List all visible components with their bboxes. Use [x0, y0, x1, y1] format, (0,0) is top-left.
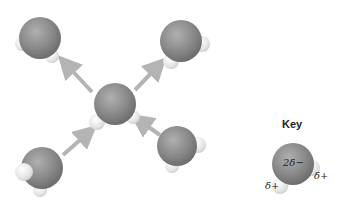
- arrow-bottom-left-to-center: [63, 133, 88, 155]
- arrow-bottom-right-to-center: [140, 121, 160, 135]
- oxygen-atom: [94, 83, 136, 125]
- oxygen-charge-label: 2δ−: [283, 157, 304, 168]
- oxygen-atom: [160, 20, 202, 62]
- water-molecule-center: [89, 83, 140, 130]
- key-title: Key: [282, 118, 302, 130]
- arrow-center-to-top-left: [66, 64, 92, 92]
- water-hydrogen-bond-diagram: [0, 0, 345, 207]
- water-molecule-bottom-right: [157, 126, 206, 173]
- water-molecule-bottom-left: [15, 147, 63, 197]
- water-molecule-top-left: [15, 17, 61, 63]
- oxygen-atom: [19, 17, 61, 59]
- hydrogen-charge-label-right: δ+: [314, 170, 328, 181]
- water-molecule-top-right: [160, 20, 210, 69]
- hydrogen-atom: [15, 163, 33, 181]
- hydrogen-charge-label-left: δ+: [265, 180, 279, 191]
- arrow-center-to-top-right: [135, 66, 158, 90]
- oxygen-atom: [157, 126, 197, 166]
